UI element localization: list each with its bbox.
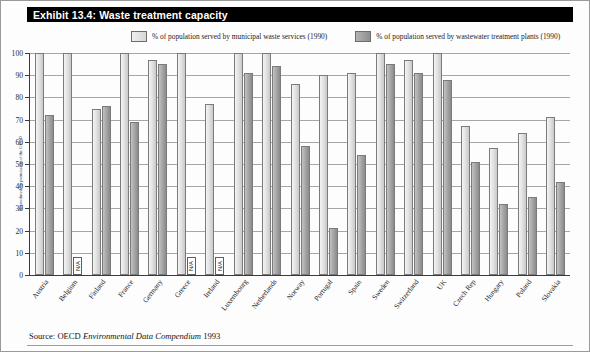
bars-layer: N/AN/AN/A: [30, 53, 570, 275]
bar-wastewater[interactable]: [244, 73, 253, 275]
x-axis-label-cell: Switzerland: [398, 277, 426, 323]
x-axis-label-finland: Finland: [87, 278, 108, 301]
bar-wastewater[interactable]: [329, 228, 338, 275]
y-axis-label-50: 50: [15, 160, 23, 169]
bar-wastewater[interactable]: [45, 115, 54, 275]
y-axis-label-100: 100: [12, 49, 23, 58]
bar-group: [229, 53, 257, 275]
x-axis-label-portugal: Portugal: [312, 278, 334, 303]
bar-municipal[interactable]: [376, 53, 385, 275]
x-axis-label-cell: Hungary: [484, 277, 512, 323]
x-axis-label-austria: Austria: [30, 278, 50, 300]
bar-municipal[interactable]: [63, 53, 72, 275]
bar-municipal[interactable]: [404, 60, 413, 275]
x-axis-label-cell: Spain: [342, 277, 370, 323]
x-axis-label-cell: Germany: [143, 277, 171, 323]
bar-municipal[interactable]: [148, 60, 157, 275]
chart-legend: % of population served by municipal wast…: [27, 29, 583, 43]
x-axis-label-uk: UK: [435, 278, 449, 292]
y-tick-0: [25, 275, 30, 276]
y-axis-label-20: 20: [15, 226, 23, 235]
exhibit-title-bar: Exhibit 13.4: Waste treatment capacity: [27, 7, 573, 22]
x-axis-label-cell: Netherlands: [256, 277, 284, 323]
y-axis-label-90: 90: [15, 71, 23, 80]
bar-municipal[interactable]: [234, 53, 243, 275]
bar-na[interactable]: N/A: [187, 257, 196, 275]
bar-wastewater[interactable]: [130, 122, 139, 275]
bar-group: [485, 53, 513, 275]
gridline-0: [30, 275, 570, 276]
x-axis-label-cell: Czech Rep: [455, 277, 483, 323]
bar-group: N/A: [201, 53, 229, 275]
bar-municipal[interactable]: [205, 104, 214, 275]
x-axis-label-cell: Finland: [86, 277, 114, 323]
bar-municipal[interactable]: [35, 53, 44, 275]
bar-municipal[interactable]: [177, 53, 186, 275]
bar-municipal[interactable]: [433, 53, 442, 275]
bar-group: [399, 53, 427, 275]
x-axis-label-cell: Belgium: [57, 277, 85, 323]
y-axis-label-70: 70: [15, 115, 23, 124]
bar-group: N/A: [58, 53, 86, 275]
x-axis-label-ireland: Ireland: [201, 278, 221, 300]
bar-wastewater[interactable]: [158, 64, 167, 275]
bar-wastewater[interactable]: [499, 204, 508, 275]
x-axis-label-cell: Portugal: [313, 277, 341, 323]
x-axis-label-hungary: Hungary: [483, 278, 506, 304]
x-axis-label-cell: Poland: [512, 277, 540, 323]
bar-na[interactable]: N/A: [215, 257, 224, 275]
bar-municipal[interactable]: [461, 126, 470, 275]
bar-wastewater[interactable]: [528, 197, 537, 275]
bar-group: [343, 53, 371, 275]
bar-wastewater[interactable]: [443, 80, 452, 275]
bar-wastewater[interactable]: [301, 146, 310, 275]
legend-label-municipal: % of population served by municipal wast…: [152, 32, 327, 41]
bar-group: [87, 53, 115, 275]
bar-wastewater[interactable]: [102, 106, 111, 275]
bar-wastewater[interactable]: [414, 73, 423, 275]
bar-municipal[interactable]: [92, 109, 101, 276]
bar-group: N/A: [172, 53, 200, 275]
source-prefix: Source: OECD: [29, 331, 83, 341]
bar-group: [456, 53, 484, 275]
light-swatch-icon: [131, 31, 147, 42]
bar-municipal[interactable]: [319, 75, 328, 275]
bar-group: [30, 53, 58, 275]
bar-group: [542, 53, 570, 275]
source-publication: Environmental Data Compendium: [83, 331, 201, 341]
x-axis-label-sweden: Sweden: [370, 278, 391, 302]
bar-municipal[interactable]: [518, 133, 527, 275]
na-label: N/A: [75, 261, 81, 271]
x-axis-label-greece: Greece: [173, 278, 193, 300]
bar-group: [115, 53, 143, 275]
bar-wastewater[interactable]: [471, 162, 480, 275]
na-label: N/A: [188, 261, 194, 271]
source-note: Source: OECD Environmental Data Compendi…: [29, 331, 220, 341]
y-axis-label-60: 60: [15, 137, 23, 146]
legend-item-municipal: % of population served by municipal wast…: [131, 31, 327, 42]
footer-rule: [27, 345, 573, 346]
bar-municipal[interactable]: [120, 53, 129, 275]
na-label: N/A: [217, 261, 223, 271]
x-axis-label-belgium: Belgium: [56, 278, 79, 303]
bar-wastewater[interactable]: [357, 155, 366, 275]
bar-wastewater[interactable]: [272, 66, 281, 275]
page-title: Exhibit 13.4: Waste treatment capacity: [27, 9, 228, 21]
bar-municipal[interactable]: [347, 73, 356, 275]
bar-na[interactable]: N/A: [73, 257, 82, 275]
bar-group: [371, 53, 399, 275]
bar-wastewater[interactable]: [386, 64, 395, 275]
source-year: 1993: [201, 331, 220, 341]
x-axis-label-norway: Norway: [285, 278, 307, 302]
bar-municipal[interactable]: [262, 53, 271, 275]
x-axis-label-slovakia: Slovakia: [539, 278, 562, 304]
y-axis-label-0: 0: [19, 271, 23, 280]
bar-group: [286, 53, 314, 275]
bar-municipal[interactable]: [291, 84, 300, 275]
y-axis-label-10: 10: [15, 248, 23, 257]
bar-municipal[interactable]: [546, 117, 555, 275]
legend-item-wastewater: % of population served by wastewater tre…: [355, 31, 560, 42]
bar-municipal[interactable]: [489, 148, 498, 275]
bar-wastewater[interactable]: [556, 182, 565, 275]
y-axis-label-30: 30: [15, 204, 23, 213]
